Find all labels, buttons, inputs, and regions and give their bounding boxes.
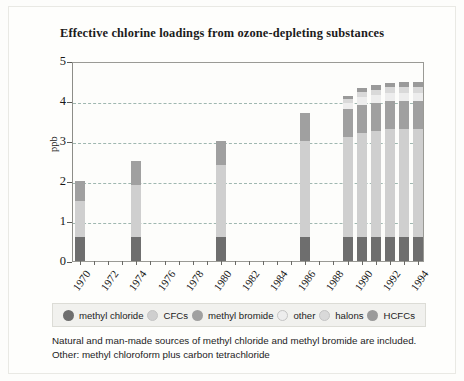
- bar-segment: [371, 95, 381, 103]
- bar-segment: [371, 237, 381, 261]
- x-tick-mark: [165, 261, 166, 265]
- legend-label: other: [293, 310, 315, 321]
- x-tick-mark: [404, 261, 405, 265]
- x-tick-mark: [277, 261, 278, 265]
- legend-label: methyl bromide: [208, 310, 274, 321]
- x-tick-mark: [207, 261, 208, 265]
- bar-segment: [300, 113, 310, 141]
- bar-segment: [75, 201, 85, 237]
- legend-label: halons: [335, 310, 363, 321]
- bar-segment: [371, 131, 381, 237]
- legend-item[interactable]: CFCs: [147, 310, 188, 321]
- x-tick-mark: [179, 261, 180, 265]
- y-tick-label: 1: [48, 214, 66, 229]
- bar-segment: [131, 161, 141, 185]
- legend-swatch-icon: [147, 310, 158, 321]
- legend-item[interactable]: methyl bromide: [192, 310, 274, 321]
- bar-segment: [413, 237, 423, 261]
- x-tick-mark: [150, 261, 151, 265]
- bar: [131, 161, 141, 261]
- bar-segment: [385, 93, 395, 101]
- y-tick-label: 4: [48, 94, 66, 109]
- legend-item[interactable]: halons: [319, 310, 363, 321]
- x-tick-mark: [376, 261, 377, 265]
- bar-segment: [385, 129, 395, 237]
- bar-segment: [131, 185, 141, 237]
- bar-segment: [75, 181, 85, 201]
- x-tick-mark: [291, 261, 292, 265]
- bar-segment: [413, 129, 423, 237]
- y-tick-label: 2: [48, 174, 66, 189]
- x-tick-mark: [333, 261, 334, 265]
- bar: [216, 141, 226, 261]
- bar-segment: [343, 109, 353, 137]
- legend-swatch-icon: [63, 310, 74, 321]
- bar-segment: [399, 101, 409, 129]
- x-tick-mark: [136, 261, 137, 265]
- legend-item[interactable]: HCFCs: [367, 310, 414, 321]
- bar-segment: [413, 93, 423, 101]
- x-tick-mark: [305, 261, 306, 265]
- bar-segment: [75, 237, 85, 261]
- x-tick-mark: [263, 261, 264, 265]
- caption-line-2: Other: methyl chloroform plus carbon tet…: [52, 348, 442, 362]
- x-tick-mark: [193, 261, 194, 265]
- x-tick-mark: [418, 261, 419, 265]
- x-tick-mark: [80, 261, 81, 265]
- caption-line-1: Natural and man-made sources of methyl c…: [52, 334, 442, 348]
- bar-segment: [399, 129, 409, 237]
- bar-segment: [343, 237, 353, 261]
- chart-legend: methyl chlorideCFCsmethyl bromideotherha…: [52, 303, 426, 327]
- bar-segment: [357, 105, 367, 133]
- bar: [371, 85, 381, 261]
- x-tick-mark: [319, 261, 320, 265]
- bar-segment: [399, 93, 409, 101]
- bar-segment: [399, 237, 409, 261]
- chart-title: Effective chlorine loadings from ozone-d…: [60, 26, 384, 41]
- plot-area: [72, 62, 424, 262]
- legend-item[interactable]: methyl chloride: [63, 310, 144, 321]
- x-tick-mark: [94, 261, 95, 265]
- bar-segment: [300, 141, 310, 237]
- x-tick-mark: [122, 261, 123, 265]
- bar-segment: [216, 237, 226, 261]
- y-tick-label: 5: [48, 54, 66, 69]
- y-tick-mark: [67, 262, 72, 263]
- bar: [357, 88, 367, 261]
- bar: [413, 82, 423, 261]
- x-tick-mark: [108, 261, 109, 265]
- x-tick-mark: [249, 261, 250, 265]
- bar-segment: [413, 101, 423, 129]
- x-tick-mark: [221, 261, 222, 265]
- legend-item[interactable]: other: [277, 310, 315, 321]
- bar-segment: [385, 101, 395, 129]
- bar-segment: [300, 237, 310, 261]
- bar-segment: [385, 237, 395, 261]
- bar-segment: [357, 133, 367, 237]
- bar-segment: [371, 103, 381, 131]
- bar-segment: [357, 97, 367, 105]
- bar-segment: [357, 237, 367, 261]
- legend-label: HCFCs: [383, 310, 414, 321]
- x-tick-mark: [362, 261, 363, 265]
- bar-segment: [216, 165, 226, 237]
- legend-swatch-icon: [192, 310, 203, 321]
- legend-label: CFCs: [163, 310, 188, 321]
- y-tick-label: 3: [48, 134, 66, 149]
- chart-caption: Natural and man-made sources of methyl c…: [52, 334, 442, 361]
- legend-label: methyl chloride: [79, 310, 144, 321]
- bar-segment: [343, 137, 353, 237]
- bar: [75, 181, 85, 261]
- bar: [399, 82, 409, 261]
- figure-container: Effective chlorine loadings from ozone-d…: [0, 0, 464, 381]
- y-tick-label: 0: [48, 254, 66, 269]
- legend-swatch-icon: [277, 310, 288, 321]
- x-tick-mark: [348, 261, 349, 265]
- bar-segment: [131, 237, 141, 261]
- legend-swatch-icon: [319, 310, 330, 321]
- legend-swatch-icon: [367, 310, 378, 321]
- bar-segment: [216, 141, 226, 165]
- bar: [300, 113, 310, 261]
- bar: [343, 96, 353, 261]
- x-tick-mark: [390, 261, 391, 265]
